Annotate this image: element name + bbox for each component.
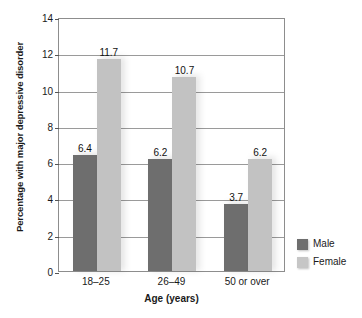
y-axis-tick-label: 6 xyxy=(27,159,53,169)
x-axis-tick-label: 26–49 xyxy=(132,276,212,287)
x-axis-tick-label: 50 or over xyxy=(207,276,287,287)
bar-group: 6.411.7 xyxy=(59,19,135,271)
plot-area: 024681012146.411.76.210.73.76.2 xyxy=(58,18,285,272)
y-axis-tick-label: 2 xyxy=(27,232,53,242)
legend-label-male: Male xyxy=(313,239,335,249)
y-axis-tick-label: 4 xyxy=(27,195,53,205)
bar-group: 6.210.7 xyxy=(135,19,211,271)
y-axis-tick-label: 10 xyxy=(27,87,53,97)
legend-label-female: Female xyxy=(313,257,346,267)
y-axis-tick-label: 14 xyxy=(27,14,53,24)
y-axis-tick-label: 0 xyxy=(27,268,53,278)
legend-swatch-male-icon xyxy=(297,239,308,250)
bar-value-label: 11.7 xyxy=(91,48,127,58)
bar-male-0 xyxy=(73,155,97,271)
legend-swatch-female-icon xyxy=(297,257,308,268)
legend: Male Female xyxy=(297,236,359,272)
bar-value-label: 10.7 xyxy=(166,66,202,76)
bar-male-2 xyxy=(224,204,248,271)
y-axis-tick-label: 12 xyxy=(27,50,53,60)
x-axis-title: Age (years) xyxy=(58,293,285,304)
legend-item-male: Male xyxy=(297,236,359,252)
legend-item-female: Female xyxy=(297,254,359,270)
bar-male-1 xyxy=(148,159,172,271)
y-axis-tick-mark xyxy=(55,273,59,274)
bar-female-0 xyxy=(97,59,121,271)
bar-value-label: 6.2 xyxy=(242,148,278,158)
bar-group: 3.76.2 xyxy=(210,19,286,271)
bar-female-2 xyxy=(248,159,272,271)
bar-female-1 xyxy=(172,77,196,271)
y-axis-tick-label: 8 xyxy=(27,123,53,133)
x-axis-tick-label: 18–25 xyxy=(56,276,136,287)
bar-chart-figure: Percentage with major depressive disorde… xyxy=(0,0,362,318)
